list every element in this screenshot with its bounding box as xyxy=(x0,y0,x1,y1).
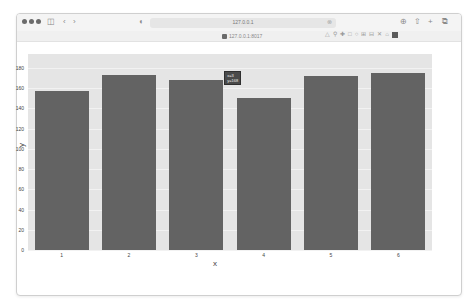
url-text: 127.0.0.1 xyxy=(150,19,336,25)
clear-url-icon[interactable]: ⊗ xyxy=(327,18,332,25)
back-icon[interactable]: ‹ xyxy=(63,17,66,27)
bar-3[interactable] xyxy=(169,80,223,250)
box-select-icon[interactable]: □ xyxy=(348,31,352,38)
y-tick-label: 20 xyxy=(4,227,24,233)
address-bar[interactable]: 127.0.0.1 ⊗ xyxy=(150,18,336,28)
x-tick-label: 2 xyxy=(119,252,139,258)
y-tick-label: 80 xyxy=(4,166,24,172)
tooltip-y: y=168 xyxy=(227,78,238,83)
x-tick-label: 1 xyxy=(52,252,72,258)
y-tick-label: 0 xyxy=(4,247,24,253)
y-tick-label: 120 xyxy=(4,126,24,132)
x-tick-label: 5 xyxy=(321,252,341,258)
plotly-modebar: △ ⚲ ✚ □ ○ ⊞ ⊟ ✕ ⌂ xyxy=(325,31,398,38)
zoom-dot-icon[interactable] xyxy=(36,19,41,24)
sidebar-icon[interactable]: ◫ xyxy=(47,17,55,27)
window-controls[interactable] xyxy=(22,19,41,24)
zoom-icon[interactable]: ⚲ xyxy=(333,31,337,38)
x-tick-label: 4 xyxy=(254,252,274,258)
minimize-dot-icon[interactable] xyxy=(29,19,34,24)
y-tick-label: 180 xyxy=(4,65,24,71)
lasso-icon[interactable]: ○ xyxy=(355,31,359,38)
bar-2[interactable] xyxy=(102,75,156,250)
y-tick-label: 60 xyxy=(4,186,24,192)
bar-5[interactable] xyxy=(304,76,358,250)
new-tab-icon[interactable]: + xyxy=(428,17,433,27)
bar-1[interactable] xyxy=(35,91,89,250)
y-tick-label: 40 xyxy=(4,207,24,213)
camera-icon[interactable]: △ xyxy=(325,31,330,38)
tab-title: 127.0.0.1:8017 xyxy=(229,33,262,39)
gridline xyxy=(28,250,432,251)
y-tick-label: 140 xyxy=(4,105,24,111)
share-icon[interactable]: ⇧ xyxy=(414,17,421,27)
autoscale-icon[interactable]: ✕ xyxy=(377,31,382,38)
x-tick-label: 3 xyxy=(186,252,206,258)
reset-axes-icon[interactable]: ⌂ xyxy=(385,31,389,38)
zoom-in-icon[interactable]: ⊞ xyxy=(361,31,366,38)
y-tick-label: 160 xyxy=(4,85,24,91)
pan-icon[interactable]: ✚ xyxy=(340,31,345,38)
x-axis-label: x xyxy=(213,259,217,268)
download-icon[interactable]: ⊕ xyxy=(400,17,407,27)
plotly-logo-icon[interactable] xyxy=(392,32,398,38)
tab-active[interactable]: 127.0.0.1:8017 xyxy=(222,33,262,39)
zoom-out-icon[interactable]: ⊟ xyxy=(369,31,374,38)
shield-icon[interactable]: ◐ xyxy=(139,17,144,27)
tabs-icon[interactable]: ⧉ xyxy=(442,17,448,27)
bar-6[interactable] xyxy=(371,73,425,250)
forward-icon[interactable]: › xyxy=(73,17,76,27)
hover-tooltip: x=3 y=168 xyxy=(224,71,241,85)
x-tick-label: 6 xyxy=(388,252,408,258)
close-dot-icon[interactable] xyxy=(22,19,27,24)
y-axis-label: y xyxy=(17,143,26,147)
gridline xyxy=(28,68,432,69)
favicon-icon xyxy=(222,34,227,39)
browser-toolbar: ◫ ‹ › ◐ 127.0.0.1 ⊗ ⊕ ⇧ + ⧉ xyxy=(17,14,461,31)
bar-4[interactable] xyxy=(237,98,291,250)
